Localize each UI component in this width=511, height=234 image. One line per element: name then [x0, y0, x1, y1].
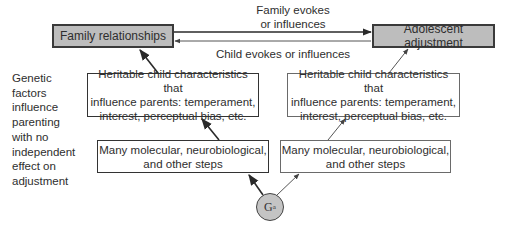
node-label-line: Heritable child characteristics that	[288, 67, 459, 95]
side-note-line: Genetic	[12, 71, 75, 86]
node-label-line: Heritable child characteristics that	[88, 67, 258, 95]
edge-label-line: or influences	[238, 17, 348, 31]
side-note-line: effect on	[12, 159, 75, 174]
node-label-line: influence parents: temperament,	[291, 95, 456, 109]
node-heritable-characteristics-right: Heritable child characteristics that inf…	[287, 73, 460, 117]
edge-label-family-evokes: Family evokes or influences	[238, 3, 348, 31]
node-molecular-steps-left: Many molecular, neurobiological, and oth…	[97, 140, 269, 173]
node-label-line: Many molecular, neurobiological,	[99, 143, 266, 157]
node-family-relationships: Family relationships	[52, 24, 174, 48]
node-label-line: Many molecular, neurobiological,	[282, 143, 449, 157]
node-label-line: interest, perceptual bias, etc.	[99, 109, 246, 123]
node-label: Adolescent adjustment	[374, 22, 493, 50]
node-label-line: interest, perceptual bias, etc.	[300, 109, 447, 123]
side-note-line: independent	[12, 145, 75, 160]
side-note-genetic-factors: Genetic factors influence parenting with…	[12, 71, 75, 189]
node-label-line: influence parents: temperament,	[91, 95, 256, 109]
node-molecular-steps-right: Many molecular, neurobiological, and oth…	[280, 140, 451, 173]
node-label: Family relationships	[60, 29, 166, 43]
edge-label-child-evokes: Child evokes or influences	[198, 47, 368, 61]
arrow-gene-to-steps-right	[277, 174, 299, 195]
side-note-line: adjustment	[12, 174, 75, 189]
side-note-line: parenting	[12, 115, 75, 130]
side-note-line: factors	[12, 86, 75, 101]
node-label-line: and other steps	[326, 157, 405, 171]
arrow-gene-to-steps-left	[249, 175, 263, 195]
side-note-line: influence	[12, 100, 75, 115]
node-gene-ga: Ga	[256, 193, 284, 221]
node-adolescent-adjustment: Adolescent adjustment	[372, 24, 495, 48]
gene-subscript: a	[273, 203, 276, 211]
node-heritable-characteristics-left: Heritable child characteristics that inf…	[87, 73, 259, 117]
gene-symbol: G	[264, 200, 273, 215]
edge-label-line: Family evokes	[238, 3, 348, 17]
node-label-line: and other steps	[143, 157, 222, 171]
side-note-line: with no	[12, 130, 75, 145]
